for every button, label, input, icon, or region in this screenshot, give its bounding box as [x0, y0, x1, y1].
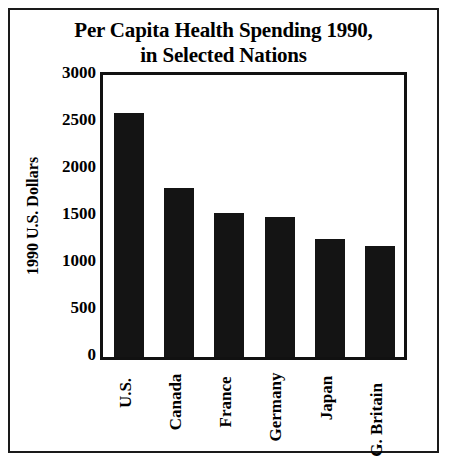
bar-germany	[265, 217, 295, 357]
x-axis-tick-labels: U.S.CanadaFranceGermanyJapanG. Britain	[100, 362, 407, 454]
bar-france	[214, 213, 244, 357]
bar-canada	[164, 188, 194, 357]
x-tick-label-u-s: U.S.	[117, 366, 135, 454]
y-tick-label-2000: 2000	[62, 158, 96, 175]
y-axis-title: 1990 U.S. Dollars	[20, 72, 46, 360]
bar-u-s	[114, 113, 144, 357]
x-tick-label-text: Canada	[167, 374, 185, 431]
x-tick-label-g-britain: G. Britain	[368, 366, 386, 454]
x-tick-label-canada: Canada	[167, 366, 185, 454]
x-tick-label-text: Germany	[268, 372, 286, 441]
x-tick-label-text: U.S.	[117, 378, 135, 408]
chart-title-line-1: Per Capita Health Spending 1990,	[10, 18, 437, 43]
chart-title-line-2: in Selected Nations	[10, 43, 437, 68]
x-tick-label-text: G. Britain	[368, 383, 386, 457]
x-tick-label-text: Japan	[318, 375, 336, 419]
bars-layer	[103, 75, 404, 357]
bar-japan	[315, 239, 345, 357]
y-tick-label-1500: 1500	[62, 205, 96, 222]
x-tick-label-text: France	[217, 377, 235, 428]
chart-title: Per Capita Health Spending 1990, in Sele…	[10, 18, 437, 68]
chart-figure: Per Capita Health Spending 1990, in Sele…	[8, 8, 439, 453]
y-tick-label-1000: 1000	[62, 252, 96, 269]
x-tick-label-france: France	[217, 366, 235, 454]
x-tick-label-germany: Germany	[268, 366, 286, 454]
x-tick-label-japan: Japan	[318, 366, 336, 454]
bar-g-britain	[365, 246, 395, 357]
y-tick-label-500: 500	[71, 299, 97, 316]
y-tick-label-2500: 2500	[62, 111, 96, 128]
plot-area	[100, 72, 407, 360]
y-axis-title-label: 1990 U.S. Dollars	[25, 157, 41, 275]
y-tick-label-0: 0	[88, 346, 97, 363]
